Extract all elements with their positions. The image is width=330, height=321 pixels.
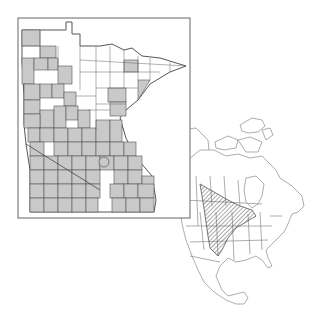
minnesota-inset bbox=[18, 18, 190, 218]
map-figure bbox=[0, 0, 330, 321]
